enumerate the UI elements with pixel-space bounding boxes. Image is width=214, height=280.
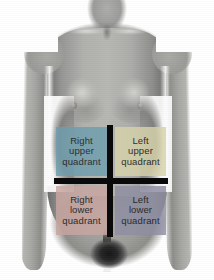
quadrant-left-upper[interactable]: Left upper quadrant: [115, 127, 166, 176]
sternal-notch: [100, 22, 114, 48]
quadrant-left-lower-line-3: quadrant: [121, 216, 159, 227]
quadrant-right-upper[interactable]: Right upper quadrant: [56, 127, 107, 176]
quadrant-right-lower-line-3: quadrant: [62, 216, 100, 227]
quadrant-right-lower[interactable]: Right lower quadrant: [56, 186, 107, 235]
quadrant-overlay: Right upper quadrant Left upper quadrant…: [56, 127, 166, 235]
quadrant-left-lower[interactable]: Left lower quadrant: [115, 186, 166, 235]
horizontal-divider-transumbilical: [54, 178, 168, 184]
left-arm-torso-gap: [44, 66, 54, 186]
thigh-separation: [100, 272, 114, 280]
abdominal-quadrants-diagram: Right upper quadrant Left upper quadrant…: [0, 0, 214, 280]
quadrant-right-upper-line-3: quadrant: [62, 157, 100, 168]
background-mask-bottom-left: [0, 250, 22, 280]
background-mask-bottom-right: [192, 250, 214, 280]
quadrant-left-upper-line-3: quadrant: [121, 157, 159, 168]
background-mask-left: [0, 44, 22, 280]
background-mask-right: [192, 44, 214, 280]
